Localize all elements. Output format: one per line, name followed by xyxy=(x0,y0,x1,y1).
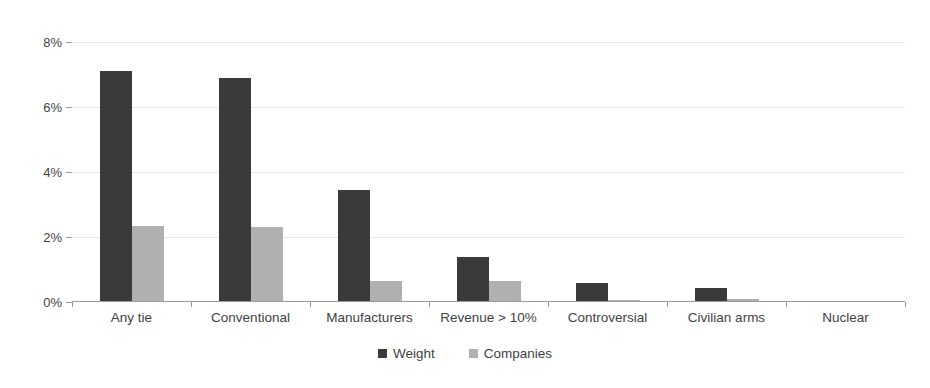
legend-item[interactable]: Companies xyxy=(469,346,552,361)
legend-swatch-icon xyxy=(378,349,387,358)
x-axis-tick-mark xyxy=(191,302,192,307)
y-axis-tick-label: 0% xyxy=(0,296,62,309)
bar-companies[interactable] xyxy=(251,227,283,302)
x-axis-tick-mark xyxy=(429,302,430,307)
x-axis-tick-label: Nuclear xyxy=(786,310,905,325)
bar-companies[interactable] xyxy=(370,281,402,302)
y-axis-tick-label: 2% xyxy=(0,231,62,244)
x-axis-line xyxy=(72,301,905,302)
x-axis-tick-mark xyxy=(905,302,906,307)
bar-companies[interactable] xyxy=(489,281,521,302)
x-axis-tick-mark xyxy=(667,302,668,307)
x-axis-tick-mark xyxy=(548,302,549,307)
bar-group xyxy=(548,42,667,302)
legend-label: Companies xyxy=(484,346,552,361)
x-axis-tick-label: Conventional xyxy=(191,310,310,325)
bar-group xyxy=(310,42,429,302)
bar-group xyxy=(191,42,310,302)
bar-weight[interactable] xyxy=(338,190,370,302)
x-axis-tick-mark xyxy=(72,302,73,307)
bar-weight[interactable] xyxy=(219,78,251,302)
bar-group xyxy=(72,42,191,302)
bar-weight[interactable] xyxy=(100,71,132,302)
plot-area xyxy=(72,42,905,302)
chart-legend: WeightCompanies xyxy=(0,346,930,361)
x-axis-tick-label: Controversial xyxy=(548,310,667,325)
bar-group xyxy=(786,42,905,302)
y-axis: 0%2%4%6%8% xyxy=(0,0,62,388)
y-axis-tick-label: 4% xyxy=(0,166,62,179)
x-axis-tick-mark xyxy=(310,302,311,307)
x-axis-tick-label: Civilian arms xyxy=(667,310,786,325)
x-axis-tick-mark xyxy=(786,302,787,307)
bar-group xyxy=(429,42,548,302)
legend-item[interactable]: Weight xyxy=(378,346,435,361)
legend-label: Weight xyxy=(393,346,435,361)
y-axis-tick-label: 8% xyxy=(0,36,62,49)
x-axis-tick-label: Revenue > 10% xyxy=(429,310,548,325)
bar-weight[interactable] xyxy=(457,257,489,303)
bar-group xyxy=(667,42,786,302)
legend-swatch-icon xyxy=(469,349,478,358)
bar-companies[interactable] xyxy=(132,226,164,302)
bar-chart: 0%2%4%6%8% Any tieConventionalManufactur… xyxy=(0,0,930,388)
bar-groups xyxy=(72,42,905,302)
bar-weight[interactable] xyxy=(576,283,608,303)
bar-weight[interactable] xyxy=(695,288,727,302)
x-axis-tick-label: Manufacturers xyxy=(310,310,429,325)
x-axis-labels: Any tieConventionalManufacturersRevenue … xyxy=(72,310,905,325)
y-axis-tick-label: 6% xyxy=(0,101,62,114)
x-axis-tick-label: Any tie xyxy=(72,310,191,325)
